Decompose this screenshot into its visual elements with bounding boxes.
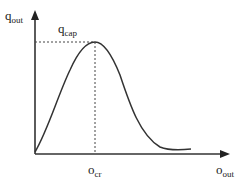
peak-value-label: qcap [58,22,77,38]
y-axis-label: qout [5,9,23,25]
diagram-canvas [0,0,248,187]
y-axis-label-sub: out [12,15,24,25]
x-axis-label: oout [216,163,234,179]
x-axis-label-sub: out [223,169,235,179]
peak-value-label-sub: cap [65,28,78,38]
peak-position-label: ocr [88,163,102,179]
peak-position-label-sub: cr [95,169,102,179]
bell-curve [35,42,191,152]
y-axis-arrow-icon [31,10,39,20]
x-axis-arrow-icon [220,150,230,158]
